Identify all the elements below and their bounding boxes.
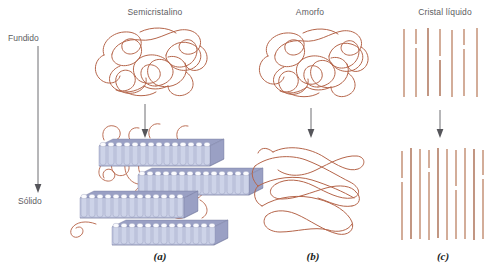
caption-a: (a)	[130, 250, 190, 262]
caption-b: (b)	[283, 250, 343, 262]
amorphous-solid-coil	[252, 148, 364, 235]
caption-c: (c)	[413, 250, 473, 262]
state-axis-arrow	[35, 46, 42, 193]
diagram-artwork	[0, 0, 497, 277]
semicrystalline-lamellae-stack	[71, 124, 263, 245]
lamella-3	[80, 191, 198, 218]
amorphous-melt-coil	[259, 29, 368, 97]
lamella-4	[112, 220, 228, 245]
polymer-structure-figure: Semicristalino Amorfo Cristal líquido Fu…	[0, 0, 497, 277]
arrow-liquid-crystal-transition	[437, 110, 444, 138]
arrow-amorphous-transition	[308, 108, 315, 138]
semicrystalline-melt-coil	[95, 28, 207, 96]
liquid-crystal-melt-rods	[404, 28, 477, 97]
arrow-semicrystalline-transition	[142, 104, 149, 138]
lamella-1	[99, 139, 224, 166]
liquid-crystal-solid-rods	[402, 148, 483, 240]
